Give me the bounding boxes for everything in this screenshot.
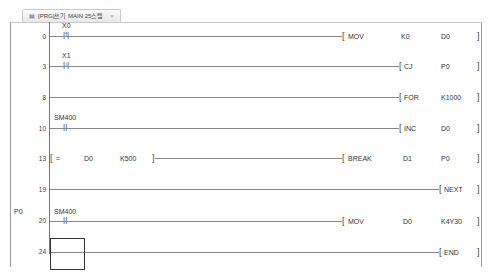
compare-operand: D0 — [84, 155, 93, 162]
rung-wire — [50, 252, 439, 253]
program-tab[interactable]: ▤ [PRG]쓰기 MAIN 25스텝 × — [22, 9, 121, 23]
ladder-editor[interactable] — [10, 22, 482, 267]
contact-label: X1 — [62, 52, 71, 59]
operand: K1000 — [441, 94, 461, 101]
operand: D1 — [403, 155, 412, 162]
step-number: 20 — [16, 217, 46, 224]
step-number: 8 — [16, 94, 46, 101]
rung-wire — [50, 97, 399, 98]
operand: D0 — [441, 33, 450, 40]
contact-label: SM400 — [54, 114, 76, 121]
rung-wire — [50, 221, 342, 222]
instruction[interactable]: BREAK — [348, 155, 372, 162]
operand: D0 — [403, 218, 412, 225]
bracket-close: ] — [477, 248, 480, 257]
bracket-close: ] — [477, 154, 480, 163]
left-power-rail — [49, 22, 50, 254]
bracket-open: [ — [399, 93, 402, 102]
step-number: 13 — [16, 155, 46, 162]
instruction[interactable]: NEXT — [444, 186, 463, 193]
instruction[interactable]: MOV — [348, 33, 364, 40]
bracket-close: ] — [477, 185, 480, 194]
bracket-close: ] — [477, 32, 480, 41]
bracket-close: ] — [477, 93, 480, 102]
step-number: 3 — [16, 63, 46, 70]
rung-wire — [50, 36, 342, 37]
compare-operator[interactable]: = — [56, 155, 60, 162]
instruction[interactable]: END — [444, 249, 459, 256]
normally-open-contact-icon[interactable]: | | — [63, 216, 66, 224]
step-number: 10 — [16, 125, 46, 132]
bracket-open: [ — [342, 32, 345, 41]
step-number: 0 — [16, 33, 46, 40]
contact-label: X0 — [62, 22, 71, 29]
operand: K0 — [401, 33, 410, 40]
step-number: 24 — [16, 248, 46, 255]
instruction[interactable]: FOR — [404, 94, 419, 101]
rung-wire — [155, 158, 342, 159]
rung-wire — [50, 66, 399, 67]
compare-operand: K500 — [120, 155, 136, 162]
bracket-open: [ — [399, 124, 402, 133]
bracket-close: ] — [477, 62, 480, 71]
edit-cursor[interactable] — [50, 238, 85, 270]
rung-wire — [50, 189, 439, 190]
instruction[interactable]: MOV — [348, 218, 364, 225]
bracket-open: [ — [439, 185, 442, 194]
bracket-close: ] — [477, 124, 480, 133]
bracket-open: [ — [342, 217, 345, 226]
instruction[interactable]: INC — [404, 125, 416, 132]
rung-wire — [50, 128, 399, 129]
operand: P0 — [441, 63, 450, 70]
operand: P0 — [441, 155, 450, 162]
bracket-close: ] — [477, 217, 480, 226]
compare-bracket-open: [ — [50, 154, 53, 163]
instruction[interactable]: CJ — [404, 63, 413, 70]
contact-label: SM400 — [54, 208, 76, 215]
bracket-open: [ — [399, 62, 402, 71]
operand: D0 — [441, 125, 450, 132]
normally-open-contact-icon[interactable]: | | — [63, 123, 66, 131]
falling-edge-contact-icon[interactable]: |↓| — [63, 61, 68, 69]
bracket-open: [ — [342, 154, 345, 163]
rising-edge-contact-icon[interactable]: |↑| — [63, 31, 68, 39]
pointer-label: P0 — [14, 208, 23, 215]
operand: K4Y30 — [441, 218, 462, 225]
step-number: 19 — [16, 186, 46, 193]
bracket-open: [ — [439, 248, 442, 257]
